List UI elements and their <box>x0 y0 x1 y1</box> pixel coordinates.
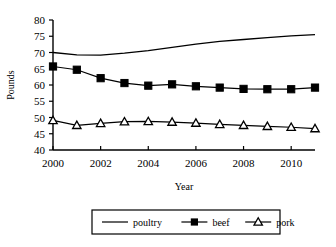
data-point-beef <box>192 83 199 90</box>
chart-canvas: 404550556065707580 200020022004200620082… <box>0 0 336 247</box>
legend-label-pork: pork <box>276 217 294 228</box>
y-axis-tick-labels: 404550556065707580 <box>34 14 46 156</box>
data-point-beef <box>264 86 271 93</box>
y-tick-label: 50 <box>34 112 46 124</box>
line-chart: 404550556065707580 200020022004200620082… <box>0 0 336 247</box>
series-beef <box>49 63 318 93</box>
y-tick-label: 40 <box>34 144 46 156</box>
data-point-beef <box>216 84 223 91</box>
x-axis-tick-labels: 200020022004200620082010 <box>42 157 303 169</box>
series-poultry <box>53 35 315 55</box>
y-tick-label: 55 <box>34 95 46 107</box>
data-point-beef <box>145 82 152 89</box>
data-point-beef <box>49 63 56 70</box>
y-axis-title: Pounds <box>5 70 16 100</box>
series-pork <box>49 116 319 132</box>
data-point-beef <box>121 79 128 86</box>
x-tick-label: 2010 <box>280 157 303 169</box>
series-line-pork <box>53 120 315 128</box>
x-tick-label: 2004 <box>137 157 160 169</box>
series-line-beef <box>53 66 315 89</box>
y-tick-label: 75 <box>34 30 46 42</box>
y-tick-label: 45 <box>34 128 46 140</box>
data-point-beef <box>288 86 295 93</box>
x-tick-label: 2000 <box>42 157 65 169</box>
y-tick-label: 65 <box>34 63 46 75</box>
data-point-beef <box>97 75 104 82</box>
x-tick-label: 2008 <box>233 157 256 169</box>
data-point-beef <box>168 81 175 88</box>
y-tick-label: 70 <box>34 47 46 59</box>
x-axis-title: Year <box>175 181 194 192</box>
y-tick-label: 60 <box>34 79 46 91</box>
legend-marker-beef <box>191 218 198 225</box>
x-tick-label: 2006 <box>185 157 208 169</box>
series-line-poultry <box>53 35 315 55</box>
data-series-layer <box>49 35 319 132</box>
y-tick-label: 80 <box>34 14 46 26</box>
data-point-beef <box>73 66 80 73</box>
legend-label-poultry: poultry <box>133 217 162 228</box>
data-point-beef <box>311 84 318 91</box>
x-tick-label: 2002 <box>90 157 112 169</box>
data-point-beef <box>240 85 247 92</box>
legend-label-beef: beef <box>212 217 230 228</box>
